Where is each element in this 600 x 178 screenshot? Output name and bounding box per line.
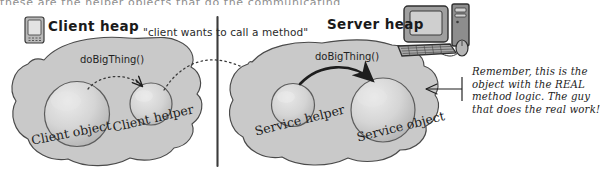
annotation-line-3: method logic. The guy	[472, 91, 600, 104]
annotation-line-4: that does the real work!	[472, 104, 600, 117]
client-heap-title: Client heap	[48, 18, 139, 34]
annotation-line-1: Remember, this is the	[472, 66, 600, 79]
annotation-callout: Remember, this is the object with the RE…	[472, 66, 600, 116]
server-method-label: doBigThing()	[315, 51, 379, 62]
diagram-canvas: these are the helper objects that do the…	[0, 0, 600, 178]
handheld-device-icon	[25, 17, 44, 43]
server-heap-title: Server heap	[327, 16, 424, 32]
annotation-line-2: object with the REAL	[472, 79, 600, 92]
client-request-quote: "client wants to call a method"	[143, 26, 308, 38]
client-method-label: doBigThing()	[80, 54, 144, 65]
